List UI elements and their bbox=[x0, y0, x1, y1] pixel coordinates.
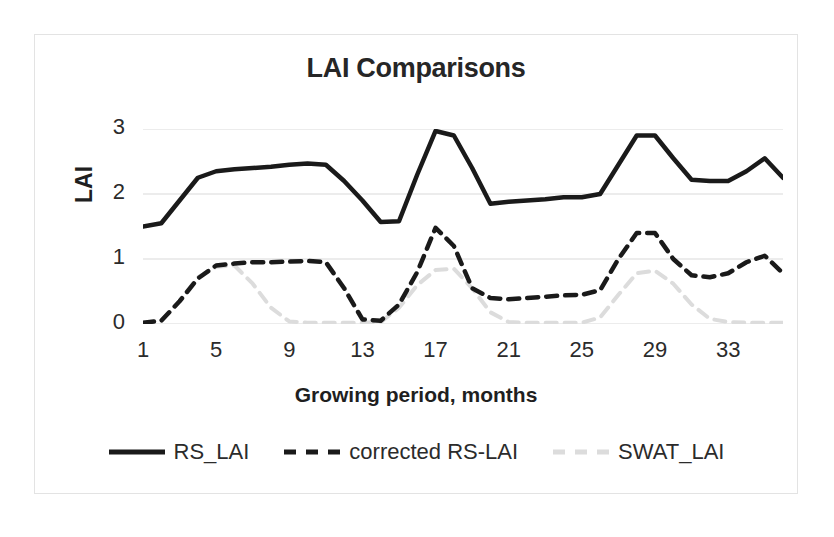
x-tick-label: 5 bbox=[193, 337, 239, 363]
x-tick-label: 33 bbox=[705, 337, 751, 363]
legend-label: corrected RS-LAI bbox=[349, 439, 518, 465]
chart-title: LAI Comparisons bbox=[35, 53, 797, 84]
series-line bbox=[143, 131, 783, 227]
legend-swatch-icon bbox=[552, 446, 610, 458]
x-tick-label: 1 bbox=[120, 337, 166, 363]
x-tick-label: 29 bbox=[632, 337, 678, 363]
y-tick-label: 3 bbox=[85, 114, 125, 140]
chart-legend: RS_LAIcorrected RS-LAISWAT_LAI bbox=[35, 439, 797, 465]
legend-label: SWAT_LAI bbox=[618, 439, 724, 465]
legend-item[interactable]: RS_LAI bbox=[108, 439, 250, 465]
x-tick-label: 21 bbox=[486, 337, 532, 363]
series-canvas bbox=[143, 129, 783, 324]
x-tick-label: 13 bbox=[339, 337, 385, 363]
y-tick-label: 0 bbox=[85, 309, 125, 335]
x-tick-label: 25 bbox=[559, 337, 605, 363]
legend-item[interactable]: SWAT_LAI bbox=[552, 439, 724, 465]
x-tick-label: 17 bbox=[413, 337, 459, 363]
y-tick-label: 2 bbox=[85, 179, 125, 205]
legend-swatch-icon bbox=[108, 446, 166, 458]
legend-item[interactable]: corrected RS-LAI bbox=[283, 439, 518, 465]
x-axis-label: Growing period, months bbox=[35, 383, 797, 407]
x-tick-label: 9 bbox=[266, 337, 312, 363]
legend-label: RS_LAI bbox=[174, 439, 250, 465]
plot-area bbox=[143, 129, 783, 324]
chart-container: LAI Comparisons LAI 0123 159131721252933… bbox=[34, 34, 798, 494]
legend-swatch-icon bbox=[283, 446, 341, 458]
series-line bbox=[143, 228, 783, 323]
y-tick-label: 1 bbox=[85, 244, 125, 270]
